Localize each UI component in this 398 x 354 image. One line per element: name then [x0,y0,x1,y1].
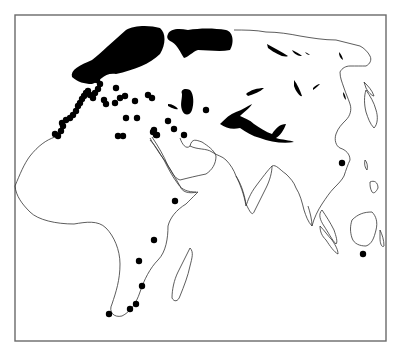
map-frame [15,15,386,341]
record-dot [151,237,157,243]
record-dot [339,160,345,166]
record-dot [154,132,160,138]
record-dot [120,133,126,139]
record-dot [134,115,140,121]
record-dot [94,77,100,83]
record-dot [103,101,109,107]
record-dot [172,198,178,204]
record-dot [132,98,138,104]
record-dot [203,107,209,113]
distribution-map [0,0,398,354]
record-dot [133,301,139,307]
record-dot [139,283,145,289]
record-dot [127,306,133,312]
record-dot [171,126,177,132]
record-dot [165,118,171,124]
record-dot [112,100,118,106]
record-dot [106,311,112,317]
record-dot [123,115,129,121]
record-dot [360,251,366,257]
record-dot [113,85,119,91]
record-dot [181,132,187,138]
range-region-caspian-region [181,89,193,114]
record-dot [122,93,128,99]
record-dot [149,95,155,101]
record-dot [136,258,142,264]
